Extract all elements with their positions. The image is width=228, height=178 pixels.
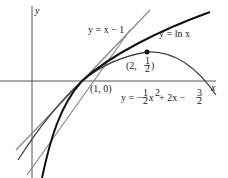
svg-text:2: 2	[145, 63, 150, 74]
svg-text:(2,: (2,	[126, 60, 137, 72]
secondary-line	[27, 30, 130, 175]
point-1-0-label: (1, 0)	[90, 83, 112, 95]
ln-label: y = ln x	[159, 28, 190, 39]
svg-text:+ 2x −: + 2x −	[159, 92, 186, 103]
x-axis-label: x	[210, 82, 216, 93]
svg-text:2: 2	[197, 95, 202, 106]
diagram-canvas: y x y = x − 1 y = ln x (1, 0) (2, 1 2 ) …	[0, 0, 228, 178]
svg-text:2: 2	[143, 95, 148, 106]
parabola-curve	[18, 52, 216, 160]
parabola-label: y = − 1 2 x 2 + 2x − 3 2	[121, 87, 202, 106]
svg-text:x: x	[148, 92, 154, 103]
svg-text:y = −: y = −	[121, 92, 143, 103]
y-axis-label: y	[34, 5, 40, 16]
svg-text:): )	[151, 60, 154, 72]
tangent-label: y = x − 1	[88, 24, 124, 35]
point-2-half-label: (2, 1 2 )	[126, 55, 154, 74]
vertex-point	[145, 50, 150, 55]
